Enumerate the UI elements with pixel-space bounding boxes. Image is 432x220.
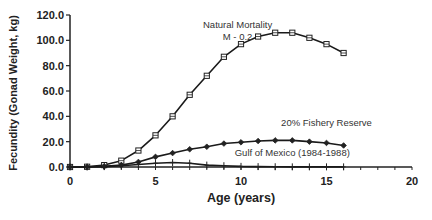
annotation: Natural Mortality: [203, 19, 272, 30]
x-tick-label: 20: [406, 175, 418, 187]
y-tick-label: 0.0: [49, 161, 64, 173]
x-tick-label: 0: [67, 175, 73, 187]
y-tick-label: 80.0: [43, 60, 64, 72]
diamond-marker: [255, 138, 261, 144]
x-ticks: 05101520: [67, 167, 418, 187]
diamond-marker: [170, 150, 176, 156]
diamond-marker: [324, 140, 330, 146]
x-tick-label: 10: [235, 175, 247, 187]
diamond-marker: [187, 146, 193, 152]
y-tick-label: 40.0: [43, 110, 64, 122]
diamond-marker: [238, 140, 244, 146]
annotation: M - 0.2: [223, 31, 253, 42]
x-axis-title: Age (years): [207, 191, 275, 205]
y-axis-title: Fecundity (Gonad Weight, kg): [7, 15, 19, 171]
diamond-marker: [204, 144, 210, 150]
y-tick-label: 100.0: [36, 34, 64, 46]
x-tick-label: 15: [320, 175, 332, 187]
y-ticks: 0.020.040.060.080.0100.0120.0: [36, 9, 70, 173]
y-tick-label: 120.0: [36, 9, 64, 21]
y-tick-label: 60.0: [43, 85, 64, 97]
diamond-marker: [221, 141, 227, 147]
diamond-marker: [307, 139, 313, 145]
y-tick-label: 20.0: [43, 136, 64, 148]
annotations: Natural MortalityM - 0.220% Fishery Rese…: [203, 19, 372, 158]
diamond-marker: [153, 154, 159, 160]
fecundity-chart: 0.020.040.060.080.0100.0120.0 05101520 N…: [0, 0, 432, 220]
diamond-marker: [290, 138, 296, 144]
diamond-marker: [272, 138, 278, 144]
x-tick-label: 5: [152, 175, 158, 187]
annotation: Gulf of Mexico (1984-1988): [235, 147, 350, 158]
annotation: 20% Fishery Reserve: [281, 117, 372, 128]
